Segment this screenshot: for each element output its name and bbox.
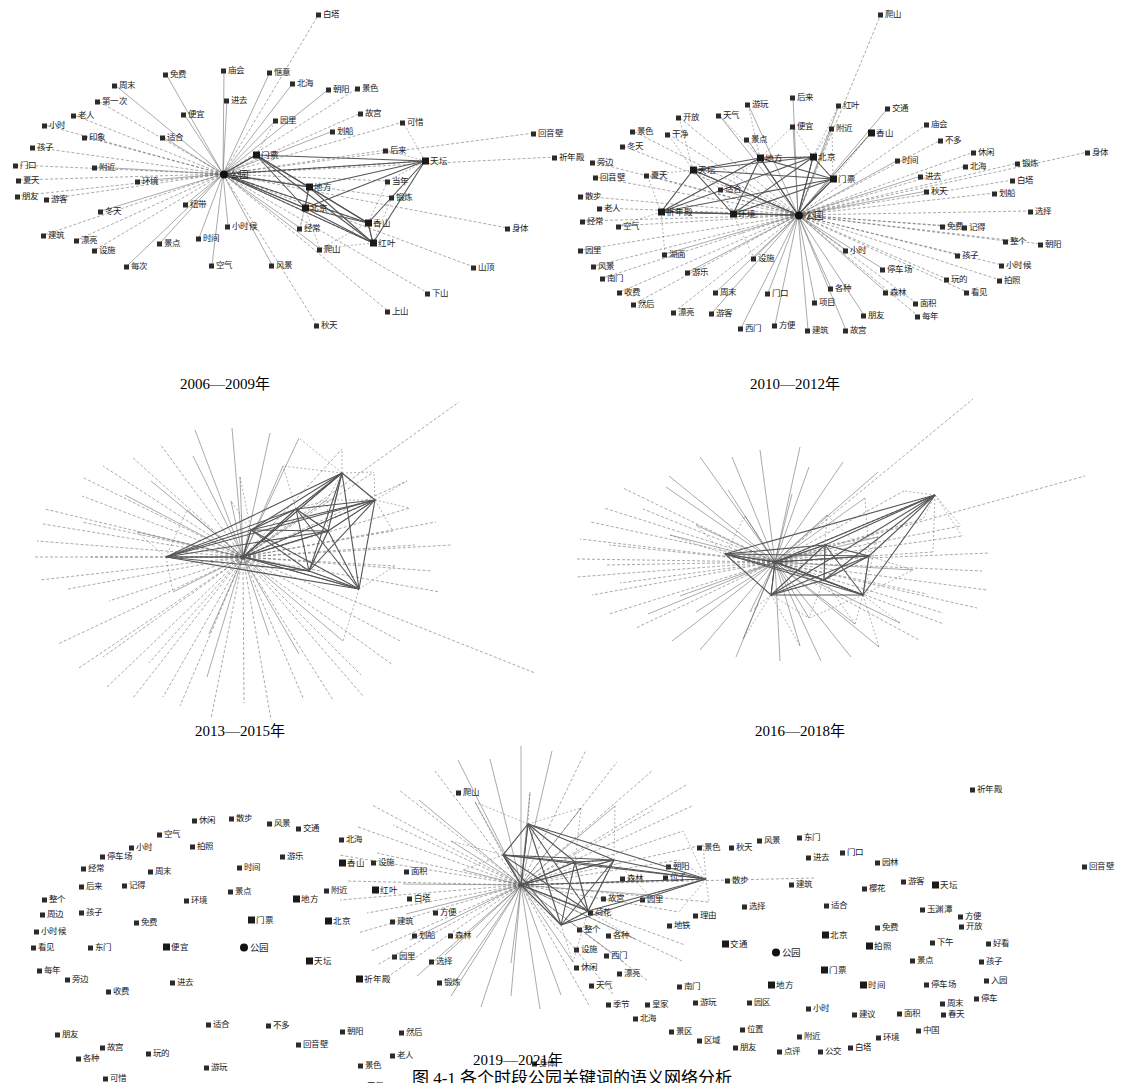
network-node: 天气 [716,111,740,120]
network-edge [575,808,581,862]
network-node: 孩子 [955,251,979,260]
network-edge [521,885,590,1007]
network-edge [451,841,521,885]
node-label: 旁边 [597,157,615,167]
network-edge [528,808,581,824]
network-node: 游玩 [745,100,769,109]
network-edge [775,562,879,647]
network-edge [679,879,706,912]
network-node: 老人 [597,204,621,213]
network-node: 散步 [578,192,602,201]
network-node: 休闲 [971,148,995,157]
network-edge [935,495,961,526]
node-marker-icon [590,160,595,165]
network-edge [521,810,653,885]
node-marker-icon [964,290,969,295]
network-edge [775,562,927,594]
node-label: 可惜 [110,1073,128,1083]
network-edge [863,595,900,623]
edge-svg-5 [0,730,1144,1050]
network-node: 身体 [1085,148,1109,157]
network-edge [743,595,771,639]
node-marker-icon [616,224,621,229]
node-label: 设施 [758,253,776,263]
network-edge [591,522,775,562]
node-marker-icon [962,225,967,230]
node-marker-icon [593,175,598,180]
node-marker-icon [924,122,929,127]
network-node: 项目 [812,298,836,307]
node-label: 天坛 [698,165,716,175]
network-node: 玩的 [944,275,968,284]
node-marker-icon [676,115,681,120]
network-edge [521,879,706,885]
node-marker-icon [913,301,918,306]
node-marker-icon [790,95,795,100]
network-node: 游客 [709,309,733,318]
node-label: 天气 [723,110,741,120]
node-marker-icon [885,106,890,111]
node-label: 游玩 [211,1062,229,1072]
node-label: 时间 [902,155,920,165]
node-label: 附近 [836,123,854,133]
network-edge [521,806,692,885]
network-node: 冬天 [620,142,644,151]
network-node: 附近 [829,124,853,133]
node-label: 休闲 [978,147,996,157]
network-node: 景色 [630,127,654,136]
network-edge [339,855,521,885]
node-marker-icon [829,126,834,131]
network-edge [775,476,1085,562]
node-marker-icon [578,248,583,253]
network-edge [798,14,881,215]
node-marker-icon [580,219,585,224]
network-node: 记得 [962,223,986,232]
network-edge [503,855,521,885]
network-edge [798,124,927,215]
node-label: 孩子 [962,250,980,260]
network-node: 收费 [617,288,641,297]
network-node: 后来 [790,93,814,102]
network-node: 不多 [938,136,962,145]
node-marker-icon [390,1053,395,1058]
node-marker-icon [1010,178,1015,183]
network-edges-canvas-2 [0,0,1144,390]
node-label: 经常 [587,216,605,226]
node-marker-icon [810,154,817,161]
node-label: 爬山 [885,9,903,19]
network-edge [904,491,935,495]
network-edge [417,885,521,976]
node-label: 玩的 [951,274,969,284]
network-edge [700,457,775,562]
node-marker-icon [963,164,968,169]
node-marker-icon [772,323,777,328]
network-edge [367,885,521,913]
node-label: 西门 [745,323,763,333]
network-node: 各种 [828,284,852,293]
network-edge [588,879,706,911]
node-marker-icon [631,302,636,307]
network-edge [736,562,775,657]
node-marker-icon [955,253,960,258]
node-label: 景色 [365,1060,383,1070]
network-node: 门票 [830,175,856,184]
network-edge [712,215,798,313]
node-marker-icon [76,1056,81,1061]
edge-svg-4 [0,390,1144,730]
network-edges-canvas-5 [0,730,1144,1050]
network-edge [406,885,521,914]
network-edge [609,545,775,562]
node-marker-icon [578,194,583,199]
network-edge [561,879,706,925]
network-edge [798,215,883,269]
node-label: 方便 [779,320,797,330]
network-panel-2016-2018: 祈年殿东门风景景色秋天进去门口园林朝阳回音壁森林位于散步游客天坛建筑樱花故宫园里… [0,390,1144,730]
node-label: 红叶 [843,100,861,110]
node-label: 开放 [683,112,701,122]
network-node: 停车场 [880,265,913,274]
network-edge [669,476,775,562]
network-node: 爬山 [878,10,902,19]
node-label: 森林 [890,287,908,297]
network-edge [741,215,798,328]
node-label: 风景 [598,261,616,271]
